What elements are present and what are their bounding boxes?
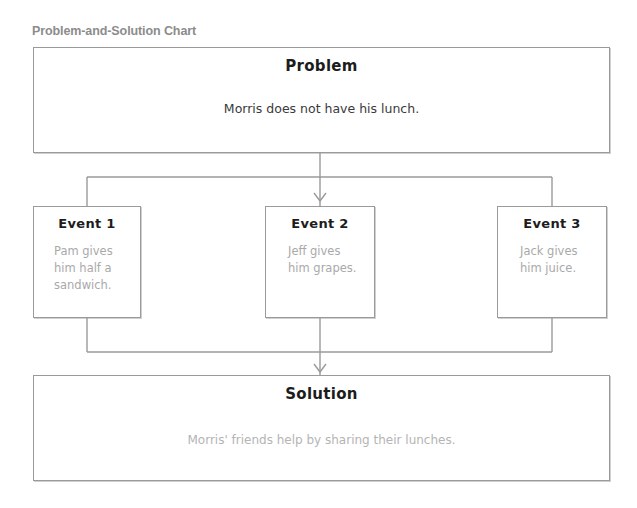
- solution-heading: Solution: [34, 385, 609, 403]
- problem-body: Morris does not have his lunch.: [34, 101, 609, 116]
- event-box-2: Event 2 Jeff gives him grapes.: [265, 206, 375, 318]
- event-heading-2: Event 2: [266, 216, 374, 231]
- chart-title: Problem-and-Solution Chart: [32, 24, 196, 38]
- problem-heading: Problem: [34, 57, 609, 75]
- arrowhead-into-event-2: [314, 193, 326, 201]
- problem-box: Problem Morris does not have his lunch.: [33, 47, 610, 153]
- event-heading-3: Event 3: [498, 216, 606, 231]
- event-body-1: Pam gives him half a sandwich.: [54, 243, 130, 294]
- event-box-1: Event 1 Pam gives him half a sandwich.: [33, 206, 141, 318]
- solution-body: Morris' friends help by sharing their lu…: [34, 433, 609, 447]
- problem-and-solution-chart: Problem-and-Solution Chart Problem Morri…: [0, 0, 637, 508]
- event-box-3: Event 3 Jack gives him juice.: [497, 206, 607, 318]
- event-body-3: Jack gives him juice.: [520, 243, 596, 277]
- event-heading-1: Event 1: [34, 216, 140, 231]
- solution-box: Solution Morris' friends help by sharing…: [33, 375, 610, 481]
- arrowhead-into-solution: [314, 364, 326, 372]
- event-body-2: Jeff gives him grapes.: [288, 243, 364, 277]
